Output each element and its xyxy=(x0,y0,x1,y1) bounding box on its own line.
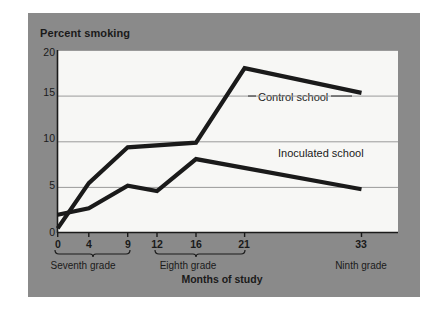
grade-brackets xyxy=(55,250,245,257)
bracket-seventh-grade xyxy=(55,250,130,257)
chart-graphics xyxy=(0,0,445,314)
chart-figure: Percent smoking 20 15 10 5 0 0 4 9 12 16… xyxy=(0,0,445,314)
bracket-eighth-grade xyxy=(155,250,245,257)
x-tick-marks xyxy=(58,233,362,237)
series-line-control-school xyxy=(58,68,362,228)
